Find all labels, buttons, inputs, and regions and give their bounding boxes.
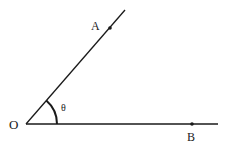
point-a-dot bbox=[108, 26, 112, 30]
point-b-dot bbox=[190, 122, 194, 126]
angle-diagram: O A B θ bbox=[0, 0, 228, 149]
point-label-a: A bbox=[91, 19, 100, 33]
angle-arc bbox=[46, 101, 57, 124]
point-label-b: B bbox=[187, 130, 195, 144]
vertex-label-o: O bbox=[9, 117, 18, 132]
angle-label-theta: θ bbox=[61, 102, 66, 113]
